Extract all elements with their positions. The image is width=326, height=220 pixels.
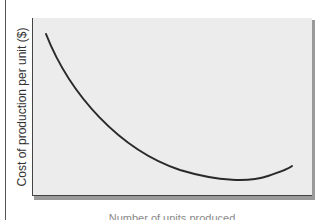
cost-curve <box>0 0 326 220</box>
y-axis-label: Cost of production per unit ($) <box>15 28 29 187</box>
x-axis-label: Number of units produced <box>109 212 236 220</box>
